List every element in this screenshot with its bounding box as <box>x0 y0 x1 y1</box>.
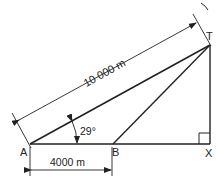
label-point-a: A <box>20 146 28 158</box>
angle-29 <box>72 121 77 143</box>
angle-arc <box>72 121 77 143</box>
label-distance-ab: 4000 m <box>50 156 85 168</box>
label-point-x: X <box>205 147 213 159</box>
line-bt <box>113 45 210 144</box>
label-angle: 29° <box>80 125 96 137</box>
right-angle-marker <box>199 133 210 144</box>
label-distance-at: 10 000 m <box>81 56 127 89</box>
label-point-b: B <box>112 146 119 158</box>
triangle-diagram: 10 000 m 29° 4000 m A B X T <box>0 0 223 182</box>
label-point-t: T <box>206 30 213 42</box>
arc-mark <box>201 3 208 10</box>
